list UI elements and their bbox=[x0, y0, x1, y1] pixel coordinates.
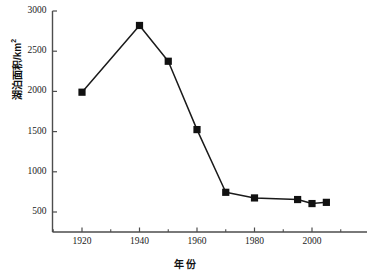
x-tick-label: 1940 bbox=[118, 236, 162, 246]
lake-area-line-chart: 50010001500200025003000 1920194019601980… bbox=[0, 0, 371, 274]
y-axis-title: 湖泊面积/km2 bbox=[9, 10, 24, 130]
axes bbox=[53, 11, 368, 232]
y-tick-label: 500 bbox=[7, 206, 47, 216]
x-axis-title: 年份 bbox=[0, 256, 371, 271]
y-tick-label: 1000 bbox=[7, 166, 47, 176]
x-tick-label: 1960 bbox=[175, 236, 219, 246]
x-tick-label: 1980 bbox=[233, 236, 277, 246]
chart-canvas bbox=[0, 0, 371, 274]
x-tick-label: 2000 bbox=[290, 236, 334, 246]
data-series-lake-area bbox=[78, 22, 330, 207]
y-axis-title-exponent: 2 bbox=[10, 39, 17, 43]
y-axis-title-text: 湖泊面积/km bbox=[12, 43, 23, 100]
x-tick-label: 1920 bbox=[60, 236, 104, 246]
